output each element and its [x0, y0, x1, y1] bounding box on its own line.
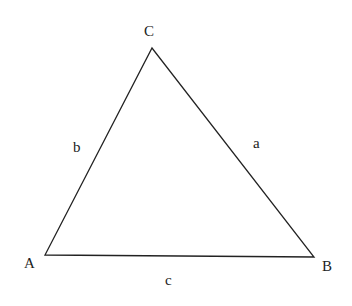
vertex-label-a: A: [24, 255, 35, 271]
side-label-b: b: [73, 139, 81, 155]
triangle-diagram: A B C a b c: [0, 0, 352, 306]
triangle-shape: [45, 48, 314, 257]
vertex-label-c: C: [144, 23, 154, 39]
vertex-label-b: B: [322, 258, 332, 274]
side-label-a: a: [253, 135, 260, 151]
side-label-c: c: [165, 272, 172, 288]
